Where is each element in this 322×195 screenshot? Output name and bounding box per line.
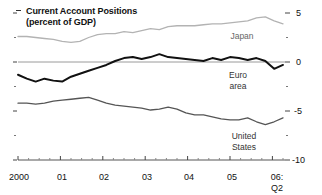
plot-area	[0, 0, 322, 195]
x-tick-label-02: 02	[91, 172, 117, 182]
series-label-japan: Japan	[222, 31, 262, 41]
x-tick-label-03: 03	[134, 172, 160, 182]
x-tick-label-06: 06:	[264, 172, 290, 182]
y-tick-label-neg5: -5	[294, 106, 302, 116]
x-tick-label-04: 04	[176, 172, 202, 182]
series-label-united-states-line1: United	[222, 131, 266, 141]
series-label-euro-area-line2: area	[218, 81, 258, 91]
x-tick-sublabel-q2: Q2	[264, 183, 290, 193]
chart-container: Current Account Positions (percent of GD…	[0, 0, 322, 195]
y-tick-label-neg10: -10	[292, 155, 305, 165]
x-tick-label-01: 01	[49, 172, 75, 182]
y-tick-label-5: 5	[296, 8, 301, 18]
x-tick-label-05: 05	[219, 172, 245, 182]
series-label-united-states-line2: States	[222, 142, 266, 152]
x-tick-label-2000: 2000	[6, 172, 32, 182]
series-label-euro-area-line1: Euro	[218, 70, 258, 80]
y-tick-label-0: 0	[296, 57, 301, 67]
